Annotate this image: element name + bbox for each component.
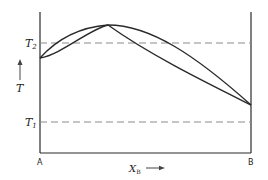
phase-diagram: T2 T1 T A B XB [0,0,268,180]
t2-label: T2 [25,37,37,51]
end-label-a: A [37,158,43,167]
right-lobe-lower-curve [108,25,251,105]
left-lobe-upper-curve [40,25,108,58]
x-axis-label: XB [128,163,141,175]
left-lobe-lower-curve [40,25,108,58]
x-axis-label-group: XB [128,163,165,175]
right-arrowhead-icon [159,166,165,171]
end-label-b: B [248,158,254,167]
t1-label: T1 [25,116,37,130]
up-arrowhead-icon [18,59,23,65]
y-axis-label-group: T [16,59,25,95]
right-lobe-upper-curve [108,25,251,105]
y-axis-label: T [16,82,25,95]
